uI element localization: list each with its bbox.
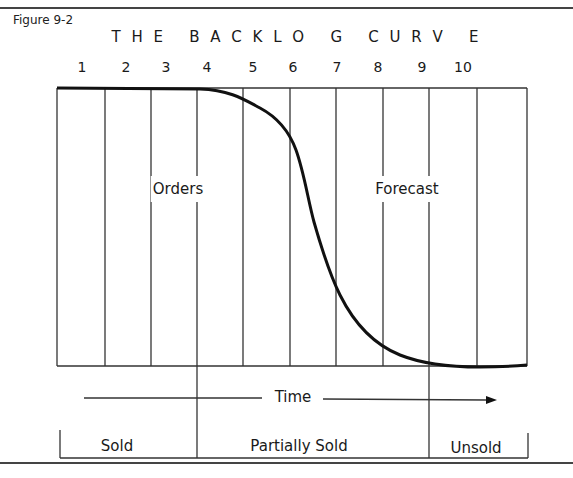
time-label: Time <box>275 388 312 406</box>
backlog-curve <box>57 88 527 367</box>
phase-sold: Sold <box>101 437 133 455</box>
backlog-diagram <box>0 0 573 478</box>
forecast-label: Forecast <box>373 176 440 202</box>
phase-partially-sold: Partially Sold <box>250 437 347 455</box>
orders-label: Orders <box>151 176 205 202</box>
phase-unsold: Unsold <box>450 439 501 457</box>
arrow-head-icon <box>486 396 497 404</box>
